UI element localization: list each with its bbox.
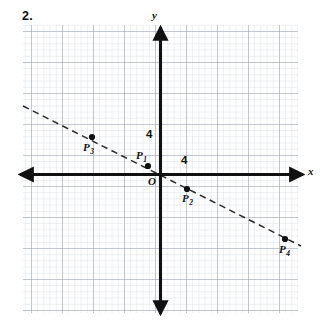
x-axis-tick-label-4: 4	[181, 155, 187, 167]
point-label-p4-subscript: 4	[286, 249, 290, 258]
point-p3	[89, 134, 95, 140]
x-axis-label: x	[308, 166, 314, 177]
point-label-p1: P1	[136, 150, 146, 161]
point-label-p1-subscript: 1	[143, 155, 147, 164]
point-label-p2-base: P	[182, 192, 189, 204]
y-axis-tick-label-4: 4	[146, 129, 152, 141]
coordinate-plane-svg	[0, 0, 323, 329]
point-label-p1-base: P	[136, 149, 143, 161]
coordinate-plane-figure: y x O 4 4 P1 P2 P3 P4	[0, 0, 323, 329]
point-label-p2-subscript: 2	[189, 198, 193, 207]
origin-label: O	[148, 176, 156, 187]
point-label-p3: P3	[83, 142, 93, 153]
worksheet-page: 2.	[0, 0, 323, 329]
point-label-p4-base: P	[279, 243, 286, 255]
point-label-p3-base: P	[83, 141, 90, 153]
y-axis-label: y	[152, 10, 157, 21]
point-p4	[282, 236, 288, 242]
point-label-p4: P4	[279, 244, 289, 255]
point-label-p3-subscript: 3	[90, 147, 94, 156]
point-label-p2: P2	[182, 193, 192, 204]
